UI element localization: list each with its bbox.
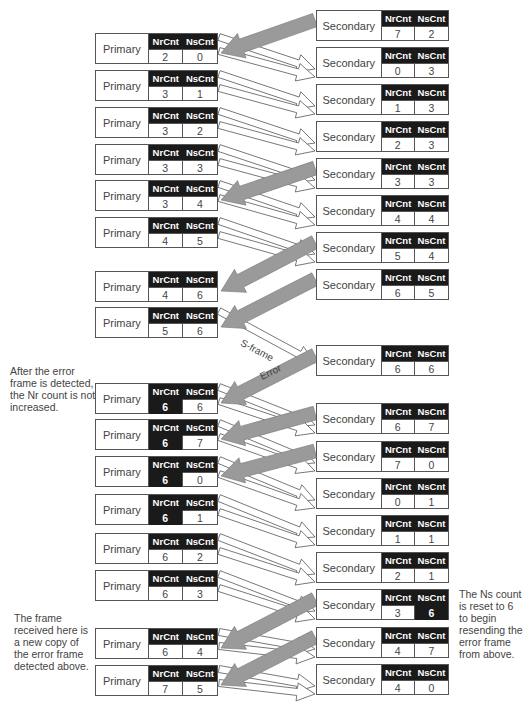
nscnt-header: NsCnt	[183, 145, 217, 160]
nrcnt-header: NrCnt	[149, 145, 183, 160]
note-error-detected: After the error frame is detected, the N…	[10, 365, 98, 413]
nrcnt-header: NrCnt	[382, 122, 415, 137]
secondary-label: Secondary	[317, 479, 382, 508]
nscnt-value: 3	[415, 63, 448, 78]
nrcnt-header: NrCnt	[382, 553, 415, 568]
secondary-label: Secondary	[317, 48, 382, 77]
note-ns-reset: The Ns count is reset to 6 to begin rese…	[459, 588, 523, 660]
primary-label: Primary	[96, 666, 149, 695]
secondary-label: Secondary	[317, 196, 382, 225]
primary-station-0: PrimaryNrCntNsCnt20	[95, 33, 218, 64]
nrcnt-value: 7	[149, 681, 183, 696]
nscnt-header: NsCnt	[183, 420, 217, 435]
nscnt-value: 7	[415, 419, 448, 434]
primary-station-8: PrimaryNrCntNsCnt66	[95, 383, 218, 414]
secondary-station-9: SecondaryNrCntNsCnt67	[316, 403, 449, 434]
nrcnt-header: NrCnt	[382, 404, 415, 419]
nscnt-value: 2	[415, 26, 448, 41]
nscnt-value: 0	[415, 457, 448, 472]
nrcnt-header: NrCnt	[382, 516, 415, 531]
primary-label: Primary	[96, 384, 149, 413]
nscnt-header: NsCnt	[183, 218, 217, 233]
nrcnt-header: NrCnt	[382, 479, 415, 494]
nrcnt-value: 6	[149, 586, 183, 601]
nscnt-header: NsCnt	[183, 108, 217, 123]
nrcnt-header: NrCnt	[382, 233, 415, 248]
primary-station-4: PrimaryNrCntNsCnt34	[95, 180, 218, 211]
nscnt-header: NsCnt	[415, 11, 448, 26]
nrcnt-header: NrCnt	[382, 48, 415, 63]
primary-station-7: PrimaryNrCntNsCnt56	[95, 307, 218, 338]
nscnt-header: NsCnt	[415, 442, 448, 457]
nscnt-value: 3	[183, 160, 217, 175]
nscnt-value: 0	[183, 49, 217, 64]
nscnt-value: 4	[183, 644, 217, 659]
nrcnt-value: 6	[149, 399, 183, 414]
primary-station-14: PrimaryNrCntNsCnt64	[95, 628, 218, 659]
primary-station-1: PrimaryNrCntNsCnt31	[95, 70, 218, 101]
primary-station-3: PrimaryNrCntNsCnt33	[95, 144, 218, 175]
primary-label: Primary	[96, 571, 149, 600]
nscnt-value: 6	[183, 323, 217, 338]
nscnt-header: NsCnt	[415, 590, 448, 605]
nscnt-value: 6	[415, 605, 448, 620]
nscnt-value: 4	[415, 211, 448, 226]
primary-label: Primary	[96, 420, 149, 449]
nscnt-value: 1	[415, 568, 448, 583]
nscnt-header: NsCnt	[183, 534, 217, 549]
nscnt-value: 5	[415, 285, 448, 300]
nscnt-value: 3	[183, 586, 217, 601]
nscnt-value: 3	[415, 100, 448, 115]
nrcnt-header: NrCnt	[382, 11, 415, 26]
nscnt-header: NsCnt	[415, 665, 448, 680]
secondary-label: Secondary	[317, 233, 382, 262]
nrcnt-value: 6	[382, 361, 415, 376]
secondary-station-6: SecondaryNrCntNsCnt54	[316, 232, 449, 263]
nrcnt-value: 5	[382, 248, 415, 263]
secondary-label: Secondary	[317, 404, 382, 433]
nscnt-value: 1	[415, 531, 448, 546]
nrcnt-header: NrCnt	[149, 218, 183, 233]
secondary-station-11: SecondaryNrCntNsCnt01	[316, 478, 449, 509]
nscnt-header: NsCnt	[415, 85, 448, 100]
secondary-station-16: SecondaryNrCntNsCnt40	[316, 664, 449, 695]
nscnt-value: 5	[183, 681, 217, 696]
nrcnt-header: NrCnt	[382, 196, 415, 211]
nscnt-value: 0	[183, 472, 217, 487]
nscnt-header: NsCnt	[415, 196, 448, 211]
nscnt-header: NsCnt	[183, 629, 217, 644]
nrcnt-value: 4	[382, 643, 415, 658]
nscnt-value: 3	[415, 137, 448, 152]
nrcnt-header: NrCnt	[149, 420, 183, 435]
nrcnt-value: 6	[382, 419, 415, 434]
nscnt-header: NsCnt	[183, 308, 217, 323]
nscnt-value: 6	[183, 287, 217, 302]
primary-label: Primary	[96, 218, 149, 247]
nrcnt-value: 6	[149, 435, 183, 450]
nrcnt-value: 7	[382, 457, 415, 472]
secondary-station-1: SecondaryNrCntNsCnt03	[316, 47, 449, 78]
primary-label: Primary	[96, 629, 149, 658]
secondary-label: Secondary	[317, 553, 382, 582]
secondary-station-10: SecondaryNrCntNsCnt70	[316, 441, 449, 472]
nrcnt-value: 5	[149, 323, 183, 338]
primary-station-12: PrimaryNrCntNsCnt62	[95, 533, 218, 564]
nscnt-value: 1	[183, 86, 217, 101]
secondary-station-13: SecondaryNrCntNsCnt21	[316, 552, 449, 583]
primary-label: Primary	[96, 181, 149, 210]
nrcnt-header: NrCnt	[149, 457, 183, 472]
secondary-label: Secondary	[317, 346, 382, 375]
nscnt-value: 2	[183, 123, 217, 138]
nrcnt-header: NrCnt	[149, 272, 183, 287]
nrcnt-value: 2	[149, 49, 183, 64]
nscnt-header: NsCnt	[183, 34, 217, 49]
nscnt-value: 7	[415, 643, 448, 658]
nrcnt-value: 1	[382, 100, 415, 115]
primary-label: Primary	[96, 308, 149, 337]
nrcnt-value: 3	[149, 160, 183, 175]
secondary-station-7: SecondaryNrCntNsCnt65	[316, 269, 449, 300]
secondary-label: Secondary	[317, 628, 382, 657]
secondary-station-15: SecondaryNrCntNsCnt47	[316, 627, 449, 658]
nrcnt-header: NrCnt	[382, 270, 415, 285]
nrcnt-value: 7	[382, 26, 415, 41]
